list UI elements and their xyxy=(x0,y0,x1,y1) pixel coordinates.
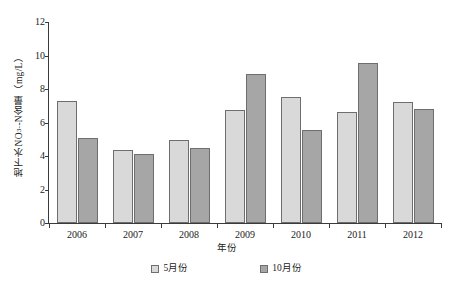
x-axis-tick-label: 2006 xyxy=(67,230,87,240)
y-axis-title-text: 地下水NO3--N含量（mg/L） xyxy=(15,52,25,177)
y-axis-tick-label: 2 xyxy=(40,185,45,195)
y-axis-title-subscript: 3 xyxy=(15,129,23,133)
legend-item-may: 5月份 xyxy=(151,264,188,274)
x-axis-tick xyxy=(161,223,162,228)
y-axis-title-tail: -N含量（mg/L） xyxy=(14,52,24,126)
x-axis-tick-label: 2009 xyxy=(235,230,255,240)
bar-chart: 地下水NO3--N含量（mg/L） 0246810122006200720082… xyxy=(0,0,453,291)
x-axis-tick xyxy=(329,223,330,228)
x-axis-tick xyxy=(441,223,442,228)
y-axis-title: 地下水NO3--N含量（mg/L） xyxy=(10,0,30,230)
y-axis-title-main: 地下水NO xyxy=(14,132,24,177)
y-axis-tick xyxy=(45,89,49,90)
bar-5月份-2010 xyxy=(281,97,301,223)
bar-5月份-2008 xyxy=(169,140,189,223)
bar-10月份-2010 xyxy=(302,130,322,223)
y-axis-tick xyxy=(45,56,49,57)
x-axis-tick-label: 2011 xyxy=(347,230,367,240)
chart-legend: 5月份 10月份 xyxy=(0,264,453,274)
y-axis-tick xyxy=(45,156,49,157)
y-axis-tick-label: 10 xyxy=(35,51,45,61)
y-axis-tick-label: 12 xyxy=(35,17,45,27)
x-axis-tick xyxy=(105,223,106,228)
legend-swatch-october-icon xyxy=(260,265,268,273)
bar-5月份-2007 xyxy=(113,150,133,223)
y-axis-title-superscript: - xyxy=(15,126,23,129)
bar-10月份-2006 xyxy=(78,138,98,223)
bar-10月份-2012 xyxy=(414,109,434,223)
y-axis-tick-label: 4 xyxy=(40,151,45,161)
plot-area: 0246810122006200720082009201020112012 xyxy=(48,22,441,224)
legend-swatch-may-icon xyxy=(151,265,159,273)
bar-5月份-2011 xyxy=(337,112,357,223)
y-axis-tick xyxy=(45,22,49,23)
x-axis-tick-label: 2008 xyxy=(179,230,199,240)
x-axis-tick-label: 2007 xyxy=(123,230,143,240)
y-axis-tick-label: 0 xyxy=(40,218,45,228)
bar-10月份-2009 xyxy=(246,74,266,223)
legend-label-may: 5月份 xyxy=(163,264,188,274)
x-axis-tick-label: 2010 xyxy=(291,230,311,240)
y-axis-tick-label: 8 xyxy=(40,84,45,94)
bar-10月份-2011 xyxy=(358,63,378,223)
y-axis-tick-label: 6 xyxy=(40,118,45,128)
x-axis-tick xyxy=(217,223,218,228)
bar-10月份-2008 xyxy=(190,148,210,223)
y-axis-tick xyxy=(45,123,49,124)
bar-5月份-2006 xyxy=(57,101,77,223)
x-axis-title: 年份 xyxy=(0,244,453,254)
y-axis-tick xyxy=(45,190,49,191)
legend-item-october: 10月份 xyxy=(260,264,302,274)
x-axis-tick xyxy=(385,223,386,228)
bar-5月份-2009 xyxy=(225,110,245,223)
x-axis-tick-label: 2012 xyxy=(403,230,423,240)
x-axis-tick xyxy=(49,223,50,228)
x-axis-tick xyxy=(273,223,274,228)
legend-label-october: 10月份 xyxy=(272,264,302,274)
bar-10月份-2007 xyxy=(134,154,154,224)
bar-5月份-2012 xyxy=(393,102,413,223)
